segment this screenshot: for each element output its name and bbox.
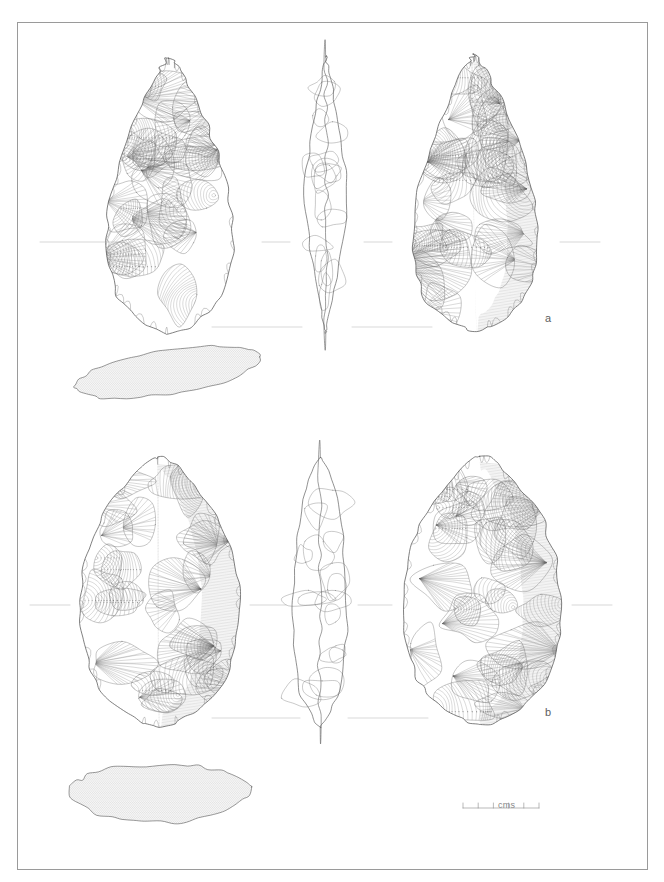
plate-border	[17, 22, 648, 870]
specimen-label-a: a	[545, 312, 551, 324]
scale-bar-unit-label: cms	[498, 800, 515, 810]
illustration-plate: a b cms	[0, 0, 664, 882]
specimen-label-b: b	[545, 706, 551, 718]
